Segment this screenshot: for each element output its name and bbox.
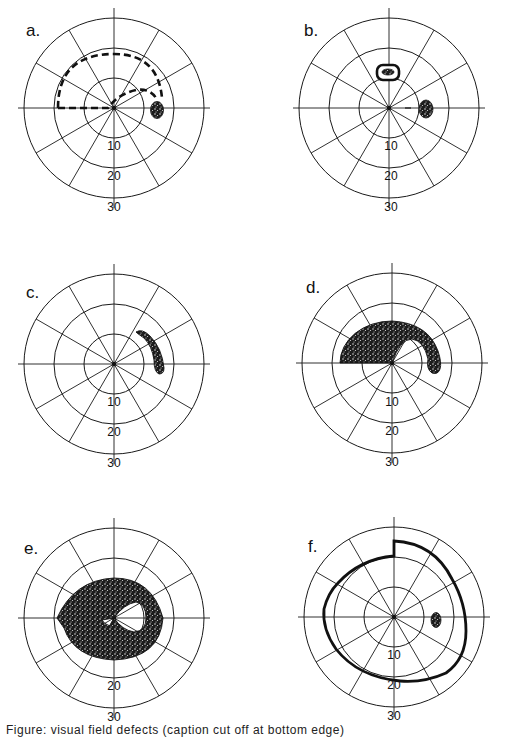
- outer-dashed-path: [58, 54, 162, 108]
- ring-scotoma-core: [382, 69, 394, 75]
- ring-label-30: 30: [107, 456, 121, 470]
- panel-d-label: d.: [306, 278, 320, 297]
- ring-labels-a: 10 20 30: [107, 139, 121, 214]
- ring-label-30: 30: [107, 200, 121, 214]
- ring-label-10: 10: [385, 395, 399, 409]
- ring-label-30: 30: [387, 709, 401, 723]
- ring-label-30: 30: [384, 200, 398, 214]
- annular-scotoma: [57, 578, 163, 660]
- ring-label-10: 10: [384, 139, 398, 153]
- panel-b: b. 10 20 30: [293, 8, 485, 214]
- ring-label-10: 10: [387, 648, 401, 662]
- panel-b-label: b.: [304, 21, 318, 40]
- panel-f-label: f.: [308, 537, 317, 556]
- panel-f: f. 10 20 30: [298, 517, 490, 723]
- blind-spot: [419, 100, 433, 118]
- ring-label-20: 20: [385, 424, 399, 438]
- panel-c-label: c.: [26, 283, 39, 302]
- ring-labels-b: 10 20 30: [384, 139, 398, 214]
- ring-label-10: 10: [107, 395, 121, 409]
- panel-c: c. 10 20 30: [18, 264, 210, 470]
- ring-label-20: 20: [107, 169, 121, 183]
- panel-a: a. 10 20 30: [18, 8, 210, 214]
- ring-label-20: 20: [387, 678, 401, 692]
- ring-label-20: 20: [107, 425, 121, 439]
- panel-d: d. 10 20 30: [296, 263, 488, 469]
- ring-labels-f: 10 20 30: [387, 648, 401, 723]
- panel-e-label: e.: [24, 539, 38, 558]
- figure-caption: Figure: visual field defects (caption cu…: [6, 723, 506, 737]
- panel-a-label: a.: [26, 21, 40, 40]
- blind-spot: [151, 102, 164, 119]
- ring-label-20: 20: [107, 679, 121, 693]
- blind-spot: [431, 613, 441, 628]
- ring-label-30: 30: [107, 710, 121, 724]
- panel-e: e. 20 30: [18, 518, 210, 724]
- ring-labels-d: 10 20 30: [385, 395, 399, 469]
- ring-label-20: 20: [384, 169, 398, 183]
- ring-label-30: 30: [385, 455, 399, 469]
- ring-labels-c: 10 20 30: [107, 395, 121, 470]
- ring-label-10: 10: [107, 139, 121, 153]
